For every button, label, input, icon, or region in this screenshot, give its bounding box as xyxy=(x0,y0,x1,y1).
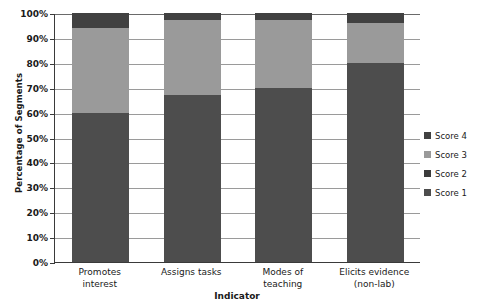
bar-segment[interactable] xyxy=(347,13,404,23)
y-axis-tick-mark xyxy=(50,263,55,264)
bar-group[interactable] xyxy=(347,14,404,262)
bar-segment[interactable] xyxy=(347,23,404,63)
plot-area xyxy=(54,14,420,263)
y-axis-tick-label: 90% xyxy=(10,34,48,43)
x-axis-tick-label: Promotesinterest xyxy=(54,267,146,290)
x-axis-tick-label-line: Promotes xyxy=(54,267,146,279)
legend-item[interactable]: Score 3 xyxy=(424,145,482,164)
legend-swatch-icon xyxy=(424,189,431,196)
bar-group[interactable] xyxy=(72,14,129,262)
x-axis-tick-label-line: Assigns tasks xyxy=(146,267,238,279)
bar-stack xyxy=(164,14,221,262)
bar-segment[interactable] xyxy=(164,20,221,95)
x-axis-tick-label-line: Modes of xyxy=(237,267,329,279)
bar-segment[interactable] xyxy=(164,95,221,262)
bar-stack xyxy=(72,14,129,262)
bar-segment[interactable] xyxy=(347,63,404,262)
legend-label: Score 4 xyxy=(435,131,467,141)
bar-segment[interactable] xyxy=(255,20,312,87)
bar-segment[interactable] xyxy=(72,113,129,262)
bar-segment[interactable] xyxy=(72,28,129,113)
legend-swatch-icon xyxy=(424,151,431,158)
x-axis-tick-label-line: (non-lab) xyxy=(329,279,421,291)
bar-group[interactable] xyxy=(255,14,312,262)
legend-label: Score 3 xyxy=(435,150,467,160)
x-axis-tick-label: Elicits evidence(non-lab) xyxy=(329,267,421,290)
bar-segment[interactable] xyxy=(255,88,312,262)
bar-segment[interactable] xyxy=(164,13,221,20)
y-axis-tick-label: 0% xyxy=(10,259,48,268)
x-axis-tick-label-line: interest xyxy=(54,279,146,291)
bar-stack xyxy=(347,14,404,262)
y-axis-tick-label: 30% xyxy=(10,184,48,193)
y-axis-tick-labels: 0%10%20%30%40%50%60%70%80%90%100% xyxy=(10,14,48,263)
stacked-bar-chart: Percentage of Segments 0%10%20%30%40%50%… xyxy=(0,0,482,305)
bar-stack xyxy=(255,14,312,262)
bar-group[interactable] xyxy=(164,14,221,262)
x-axis-tick-label-line: Elicits evidence xyxy=(329,267,421,279)
legend-item[interactable]: Score 2 xyxy=(424,164,482,183)
legend-item[interactable]: Score 1 xyxy=(424,183,482,202)
x-axis-tick-label-line: teaching xyxy=(237,279,329,291)
y-axis-tick-label: 40% xyxy=(10,159,48,168)
legend-label: Score 2 xyxy=(435,169,467,179)
legend-item[interactable]: Score 4 xyxy=(424,126,482,145)
y-axis-tick-label: 70% xyxy=(10,84,48,93)
y-axis-tick-label: 100% xyxy=(10,10,48,19)
legend-swatch-icon xyxy=(424,170,431,177)
bar-segment[interactable] xyxy=(72,13,129,28)
y-axis-tick-label: 10% xyxy=(10,234,48,243)
x-axis-tick-label: Modes ofteaching xyxy=(237,267,329,290)
chart-legend: Score 4Score 3Score 2Score 1 xyxy=(424,126,482,202)
y-axis-tick-label: 50% xyxy=(10,134,48,143)
legend-swatch-icon xyxy=(424,132,431,139)
x-axis-tick-label: Assigns tasks xyxy=(146,267,238,279)
y-axis-tick-label: 60% xyxy=(10,109,48,118)
bar-segment[interactable] xyxy=(255,13,312,20)
legend-label: Score 1 xyxy=(435,188,467,198)
bars-layer xyxy=(55,14,420,262)
x-axis-title: Indicator xyxy=(54,291,420,301)
y-axis-tick-label: 80% xyxy=(10,59,48,68)
y-axis-tick-label: 20% xyxy=(10,209,48,218)
